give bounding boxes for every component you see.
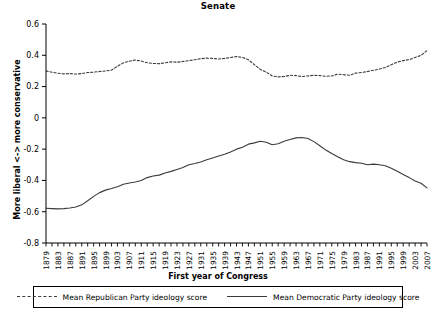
svg-text:-0.8: -0.8 xyxy=(23,239,39,248)
svg-text:1983: 1983 xyxy=(352,251,361,270)
data-series-group xyxy=(46,51,427,209)
svg-text:1879: 1879 xyxy=(42,251,51,270)
svg-text:1975: 1975 xyxy=(328,251,337,270)
legend: Mean Republican Party ideology score Mea… xyxy=(33,286,403,308)
svg-text:0.6: 0.6 xyxy=(26,20,39,29)
svg-text:1907: 1907 xyxy=(125,251,134,270)
legend-item-democratic: Mean Democratic Party ideology score xyxy=(227,293,419,302)
svg-text:1891: 1891 xyxy=(78,251,87,270)
x-axis-title: First year of Congress xyxy=(0,272,436,281)
svg-text:1959: 1959 xyxy=(280,251,289,270)
svg-text:0.4: 0.4 xyxy=(26,51,39,60)
svg-text:1935: 1935 xyxy=(209,251,218,270)
svg-text:2007: 2007 xyxy=(423,251,432,270)
svg-text:2003: 2003 xyxy=(411,251,420,270)
legend-solid-line-icon xyxy=(227,296,267,298)
svg-text:1939: 1939 xyxy=(221,251,230,270)
svg-text:-0.6: -0.6 xyxy=(23,208,39,217)
svg-text:1963: 1963 xyxy=(292,251,301,270)
svg-text:1903: 1903 xyxy=(113,251,122,270)
series-line-republican xyxy=(46,51,427,77)
legend-label-republican: Mean Republican Party ideology score xyxy=(63,293,207,302)
svg-text:1991: 1991 xyxy=(375,251,384,270)
svg-text:0: 0 xyxy=(34,114,39,123)
svg-text:1979: 1979 xyxy=(340,251,349,270)
series-line-democratic xyxy=(46,138,427,209)
svg-text:1987: 1987 xyxy=(363,251,372,270)
svg-text:1931: 1931 xyxy=(197,251,206,270)
y-axis: 0.60.40.20-0.2-0.4-0.6-0.8 xyxy=(23,20,46,248)
svg-text:1919: 1919 xyxy=(161,251,170,270)
svg-text:1923: 1923 xyxy=(173,251,182,270)
legend-dashed-line-icon xyxy=(17,296,57,298)
plot-area: 0.60.40.20-0.2-0.4-0.6-0.8 1879188318871… xyxy=(0,0,436,316)
svg-text:1967: 1967 xyxy=(304,251,313,270)
svg-text:0.2: 0.2 xyxy=(26,82,39,91)
svg-text:1895: 1895 xyxy=(90,251,99,270)
svg-text:1915: 1915 xyxy=(149,251,158,270)
svg-text:1899: 1899 xyxy=(102,251,111,270)
legend-label-democratic: Mean Democratic Party ideology score xyxy=(273,293,419,302)
svg-text:1947: 1947 xyxy=(244,251,253,270)
svg-text:1955: 1955 xyxy=(268,251,277,270)
svg-text:1887: 1887 xyxy=(66,251,75,270)
chart-container: Senate More liberal <-> more conservativ… xyxy=(0,0,436,316)
svg-text:1883: 1883 xyxy=(54,251,63,270)
x-axis: 1879188318871891189518991903190719111915… xyxy=(42,243,432,270)
svg-text:1971: 1971 xyxy=(316,251,325,270)
svg-text:1995: 1995 xyxy=(387,251,396,270)
svg-text:1911: 1911 xyxy=(137,251,146,270)
svg-text:-0.4: -0.4 xyxy=(23,176,39,185)
svg-text:1999: 1999 xyxy=(399,251,408,270)
svg-text:-0.2: -0.2 xyxy=(23,145,39,154)
legend-item-republican: Mean Republican Party ideology score xyxy=(17,293,207,302)
svg-text:1943: 1943 xyxy=(233,251,242,270)
svg-text:1951: 1951 xyxy=(256,251,265,270)
svg-text:1927: 1927 xyxy=(185,251,194,270)
